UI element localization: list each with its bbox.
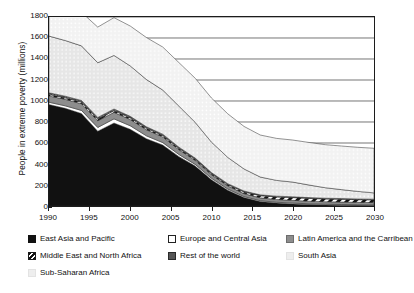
y-tick-label: 1600 (14, 33, 48, 41)
x-tick-label: 2015 (232, 213, 272, 222)
x-tick-label: 2010 (192, 213, 232, 222)
legend-europe-and-central-asia[interactable]: Europe and Central Asia (168, 234, 267, 243)
legend-label: Sub-Saharan Africa (40, 268, 109, 277)
legend-label: Latin America and the Carribean (298, 234, 413, 243)
x-tick-label: 1990 (28, 213, 68, 222)
legend-swatch-icon (286, 235, 294, 243)
legend-label: South Asia (298, 251, 336, 260)
y-tick-label: 600 (14, 139, 48, 147)
legend-swatch-icon (28, 235, 36, 243)
x-tick-mark (334, 207, 335, 211)
legend-swatch-icon (168, 252, 176, 260)
legend-label: Rest of the world (180, 251, 240, 260)
legend-south-asia[interactable]: South Asia (286, 251, 336, 260)
x-tick-label: 2030 (355, 213, 395, 222)
y-tick-label: 1800 (14, 12, 48, 20)
y-axis-ticks: 020040060080010001200140016001800 (8, 16, 48, 207)
x-tick-mark (171, 207, 172, 211)
x-tick-mark (252, 207, 253, 211)
plot-area (48, 16, 375, 207)
chart-legend: East Asia and PacificEurope and Central … (28, 234, 408, 286)
legend-swatch-icon (168, 235, 176, 243)
legend-label: Middle East and North Africa (40, 251, 141, 260)
x-tick-mark (130, 207, 131, 211)
stacked-area-plot (49, 17, 374, 206)
legend-rest-of-the-world[interactable]: Rest of the world (168, 251, 240, 260)
legend-label: East Asia and Pacific (40, 234, 115, 243)
x-tick-label: 2025 (314, 213, 354, 222)
y-tick-label: 200 (14, 182, 48, 190)
x-axis-ticks: 199019952000200520102015202020252030 (48, 207, 375, 229)
x-tick-mark (48, 207, 49, 211)
y-tick-label: 1400 (14, 54, 48, 62)
legend-swatch-icon (28, 252, 36, 260)
poverty-area-chart: People in extreme poverty (millions) 020… (0, 0, 414, 293)
legend-middle-east-and-north-africa[interactable]: Middle East and North Africa (28, 251, 141, 260)
x-tick-mark (212, 207, 213, 211)
x-tick-label: 2000 (110, 213, 150, 222)
x-tick-label: 1995 (69, 213, 109, 222)
x-tick-mark (89, 207, 90, 211)
y-tick-label: 1200 (14, 76, 48, 84)
y-tick-label: 400 (14, 161, 48, 169)
legend-latin-america-and-the-carribean[interactable]: Latin America and the Carribean (286, 234, 413, 243)
legend-east-asia-and-pacific[interactable]: East Asia and Pacific (28, 234, 115, 243)
legend-swatch-icon (28, 269, 36, 277)
x-tick-mark (374, 207, 375, 211)
y-tick-label: 0 (14, 203, 48, 211)
x-tick-label: 2005 (151, 213, 191, 222)
y-tick-label: 800 (14, 118, 48, 126)
y-tick-label: 1000 (14, 97, 48, 105)
legend-label: Europe and Central Asia (180, 234, 267, 243)
x-tick-mark (293, 207, 294, 211)
x-tick-label: 2020 (273, 213, 313, 222)
legend-sub-saharan-africa[interactable]: Sub-Saharan Africa (28, 268, 109, 277)
legend-swatch-icon (286, 252, 294, 260)
